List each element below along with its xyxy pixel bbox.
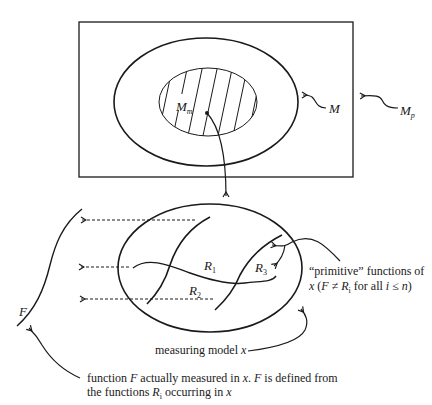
primitive-pointer-arrow-up xyxy=(272,238,340,261)
r3-label: R3 xyxy=(255,261,267,277)
function-note-line1: function F actually measured in x. F is … xyxy=(87,372,338,384)
r1-label: R1 xyxy=(204,259,216,275)
primitive-pointer-arrow-down xyxy=(274,245,285,266)
m-pointer-arrow xyxy=(303,95,326,108)
primitive-note-line2: x (F ≠ Ri for all i ≤ n) xyxy=(309,280,412,295)
mp-label: Mp xyxy=(400,104,415,120)
mapping-arrow xyxy=(207,113,226,196)
m-outer-ellipse xyxy=(114,38,298,166)
mm-label: Mm xyxy=(176,100,193,116)
function-pointer-arrow xyxy=(29,328,80,378)
model-pointer-arrow xyxy=(248,309,307,351)
mp-rectangle xyxy=(79,22,353,177)
primitive-note-line1: “primitive” functions of xyxy=(309,265,424,277)
mp-pointer-arrow xyxy=(361,96,398,108)
function-note-line2: the functions Ri occurring in x xyxy=(87,386,232,401)
f-label: F xyxy=(19,305,27,318)
curve-r-right xyxy=(215,235,282,310)
measuring-model-note: measuring model x xyxy=(155,344,246,356)
m-label: M xyxy=(329,102,340,115)
diagram-canvas: Mm M Mp R1 R2 R3 F “primitive” functions… xyxy=(0,0,432,405)
r2-label: R2 xyxy=(189,284,201,300)
